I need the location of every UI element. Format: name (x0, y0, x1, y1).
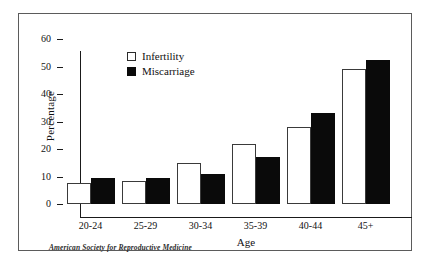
y-axis-tick-label: 50 (31, 62, 51, 72)
bar-infertility-35-39 (232, 144, 256, 205)
chart-figure: 0102030405060 Percentage 20-2425-2930-34… (0, 0, 430, 271)
y-axis-tick (57, 94, 63, 95)
bar-infertility-30-34 (177, 163, 201, 204)
bar-infertility-20-24 (67, 183, 91, 204)
bar-miscarriage-20-24 (91, 178, 115, 204)
bar-miscarriage-25-29 (146, 178, 170, 204)
y-axis-tick (57, 204, 63, 205)
y-axis-tick-label: 10 (31, 172, 51, 182)
bar-infertility-40-44 (287, 127, 311, 204)
bar-miscarriage-40-44 (311, 113, 335, 204)
y-axis-tick (57, 39, 63, 40)
x-axis-tick-label: 40-44 (281, 220, 341, 232)
y-axis-tick-label: 0 (31, 199, 51, 209)
x-axis-tick-label: 45+ (336, 220, 396, 232)
x-axis-tick-label: 35-39 (226, 220, 286, 232)
legend: Infertility Miscarriage (127, 50, 195, 80)
y-axis-tick (57, 67, 63, 68)
y-axis-tick-label: 60 (31, 34, 51, 44)
x-axis-line (80, 217, 412, 218)
x-axis-tick-label: 20-24 (61, 220, 121, 232)
legend-label-miscarriage: Miscarriage (142, 65, 195, 78)
legend-label-infertility: Infertility (142, 50, 184, 63)
y-axis-tick (57, 149, 63, 150)
figure-frame: 0102030405060 Percentage 20-2425-2930-34… (18, 13, 412, 251)
y-axis-title: Percentage (44, 76, 56, 156)
legend-item-infertility: Infertility (127, 50, 195, 63)
bar-miscarriage-30-34 (201, 174, 225, 204)
bar-infertility-25-29 (122, 181, 146, 204)
source-attribution: American Society for Reproductive Medici… (49, 243, 192, 252)
bar-infertility-45+ (342, 69, 366, 204)
bar-miscarriage-45+ (366, 60, 390, 204)
x-axis-tick-label: 30-34 (171, 220, 231, 232)
x-axis-tick-label: 25-29 (116, 220, 176, 232)
bar-miscarriage-35-39 (256, 157, 280, 204)
legend-item-miscarriage: Miscarriage (127, 65, 195, 78)
legend-swatch-open-square-icon (127, 52, 136, 61)
x-axis-title-text: Age (237, 236, 255, 248)
y-axis-tick (57, 122, 63, 123)
y-axis-tick (57, 177, 63, 178)
legend-swatch-filled-square-icon (127, 67, 136, 76)
